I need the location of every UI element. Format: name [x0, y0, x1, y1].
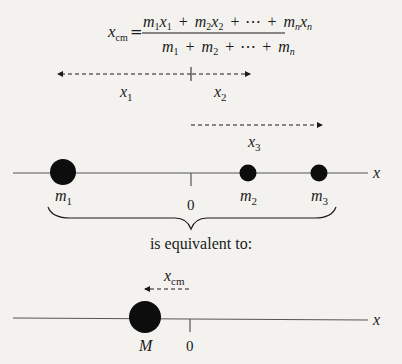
- mass-m1: [50, 159, 76, 185]
- bottom-axis-group: x 0 M: [13, 301, 380, 354]
- top-origin-label: 0: [187, 197, 195, 213]
- bottom-origin-label: 0: [186, 338, 194, 354]
- vector-x3-label: x3: [247, 133, 261, 153]
- mass-M-label: M: [138, 337, 154, 354]
- vector-xcm-label: xcm: [163, 267, 185, 287]
- formula-numerator: m1x1 + m2x2 + ⋯ + mnxn: [143, 13, 312, 33]
- equivalence-caption: is equivalent to:: [150, 235, 252, 253]
- top-x-axis-label: x: [372, 164, 380, 181]
- mass-m2-label: m2: [240, 187, 257, 207]
- top-axis-group: x 0 m1 m2 m3: [13, 159, 380, 213]
- vector-x2-label: x2: [213, 83, 227, 103]
- bottom-x-axis-label: x: [372, 311, 380, 328]
- mass-m2: [240, 165, 257, 182]
- mass-m3-label: m3: [311, 187, 329, 207]
- displacement-vectors: x1 x2 x3: [58, 67, 322, 153]
- formula-lhs: xcm: [107, 22, 128, 43]
- formula-denominator: m1 + m2 + ⋯ + mn: [162, 38, 295, 58]
- mass-M: [129, 301, 161, 333]
- center-of-mass-diagram: xcm = m1x1 + m2x2 + ⋯ + mnxn m1 + m2 + ⋯…: [0, 0, 402, 364]
- mass-m1-label: m1: [55, 187, 72, 207]
- bottom-vector: xcm: [145, 267, 189, 289]
- mass-m3: [311, 165, 328, 182]
- vector-x1-label: x1: [119, 83, 133, 103]
- center-of-mass-formula: xcm = m1x1 + m2x2 + ⋯ + mnxn m1 + m2 + ⋯…: [107, 13, 312, 58]
- formula-equals: =: [130, 23, 143, 41]
